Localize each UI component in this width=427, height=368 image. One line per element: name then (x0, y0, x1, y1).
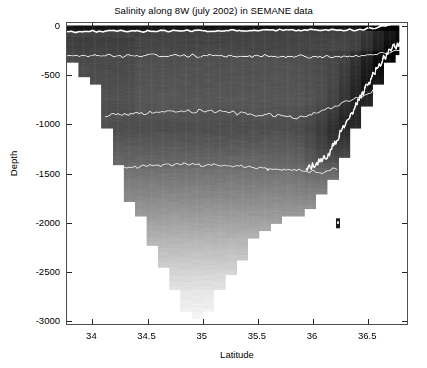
plot-axes (66, 22, 408, 325)
y-axis-label: Depth (8, 134, 19, 194)
y-tick-3 (67, 174, 72, 175)
y-tick-label-5: -2500 (10, 265, 60, 276)
x-tick-5 (368, 319, 369, 324)
y-tick-2 (402, 124, 407, 125)
x-tick-label-2: 35 (196, 330, 207, 341)
x-tick-2 (203, 23, 204, 28)
x-tick-3 (258, 23, 259, 28)
y-tick-4 (67, 223, 72, 224)
y-tick-label-1: -500 (10, 69, 60, 80)
x-tick-0 (92, 23, 93, 28)
y-tick-3 (402, 174, 407, 175)
y-tick-label-2: -1000 (10, 118, 60, 129)
y-tick-5 (67, 272, 72, 273)
y-tick-2 (67, 124, 72, 125)
x-tick-label-3: 35.5 (248, 330, 267, 341)
y-tick-label-0: 0 (10, 20, 60, 31)
y-tick-6 (402, 321, 407, 322)
x-tick-4 (313, 319, 314, 324)
y-tick-1 (67, 75, 72, 76)
y-tick-label-4: -2000 (10, 216, 60, 227)
x-tick-1 (148, 319, 149, 324)
y-tick-label-6: -3000 (10, 315, 60, 326)
x-tick-5 (368, 23, 369, 28)
page-title: Salinity along 8W (july 2002) in SEMANE … (0, 5, 427, 16)
x-tick-label-0: 34 (86, 330, 97, 341)
x-tick-label-4: 36 (307, 330, 318, 341)
y-tick-6 (67, 321, 72, 322)
y-tick-5 (402, 272, 407, 273)
figure-container: Salinity along 8W (july 2002) in SEMANE … (0, 0, 427, 368)
salinity-section-canvas (67, 23, 407, 324)
x-tick-3 (258, 319, 259, 324)
x-tick-4 (313, 23, 314, 28)
x-tick-1 (148, 23, 149, 28)
y-tick-1 (402, 75, 407, 76)
x-tick-2 (203, 319, 204, 324)
x-tick-label-5: 36.5 (358, 330, 377, 341)
y-tick-0 (402, 26, 407, 27)
x-tick-0 (92, 319, 93, 324)
y-tick-4 (402, 223, 407, 224)
x-tick-label-1: 34.5 (137, 330, 156, 341)
x-axis-label: Latitude (66, 349, 408, 360)
y-tick-0 (67, 26, 72, 27)
